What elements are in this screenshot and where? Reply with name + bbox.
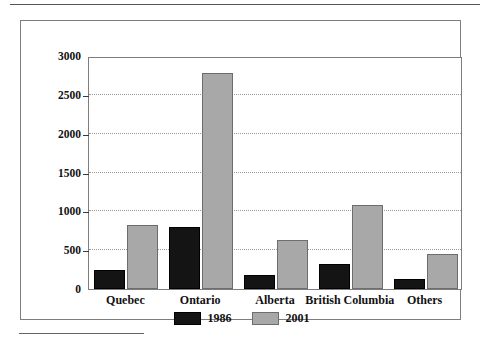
y-axis-tick-label: 3000 [58,51,81,63]
legend-swatch-2001 [252,312,279,325]
bar-quebec-1986 [94,270,125,289]
footnote-separator-rule [19,333,144,334]
bar-others-2001 [427,254,458,289]
bar-alberta-1986 [244,275,275,289]
bar-quebec-2001 [127,225,158,289]
y-axis-tickmark [83,251,89,252]
legend-item-2001: 2001 [252,311,310,326]
gridline [89,210,461,211]
top-horizontal-rule [10,4,480,5]
y-axis-tick-label: 2000 [58,129,81,141]
legend-swatch-1986 [174,312,201,325]
figure-frame: 050010001500200025003000 QuebecOntarioAl… [20,20,461,320]
plot-area [88,57,462,290]
bar-alberta-2001 [277,240,308,289]
bar-others-1986 [394,279,425,289]
gridline [89,172,461,173]
y-axis-tick-label: 1500 [58,168,81,180]
bar-ontario-1986 [169,227,200,289]
y-axis-tickmark [83,212,89,213]
y-axis-tickmark [83,96,89,97]
legend-label-2001: 2001 [286,311,310,326]
gridline [89,94,461,95]
legend-label-1986: 1986 [208,311,232,326]
bar-british-columbia-1986 [319,264,350,289]
chart-legend: 19862001 [21,311,462,326]
y-axis-tick-label: 500 [64,245,81,257]
bar-british-columbia-2001 [352,205,383,289]
y-axis-tickmark [83,135,89,136]
legend-item-1986: 1986 [174,311,232,326]
y-axis-tick-labels: 050010001500200025003000 [21,21,81,321]
y-axis-tick-label: 1000 [58,206,81,218]
gridline [89,133,461,134]
bar-ontario-2001 [202,73,233,289]
y-axis-tick-label: 2500 [58,90,81,102]
x-axis-label-others: Others [355,293,483,308]
y-axis-tickmark [83,174,89,175]
